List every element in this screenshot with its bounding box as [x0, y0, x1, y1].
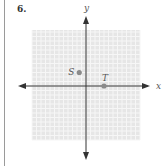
point-label-t: T — [102, 73, 108, 83]
x-axis-arrow-right-icon — [142, 83, 150, 89]
y-axis-arrow-up-icon — [83, 16, 89, 24]
x-axis-label: x — [156, 81, 161, 91]
coordinate-plane — [0, 0, 168, 166]
x-axis-arrow-left-icon — [18, 83, 26, 89]
point-t — [101, 83, 106, 88]
point-s — [77, 70, 82, 75]
y-axis-arrow-down-icon — [83, 152, 89, 160]
point-label-s: S — [68, 67, 74, 77]
y-axis-label: y — [84, 3, 89, 13]
